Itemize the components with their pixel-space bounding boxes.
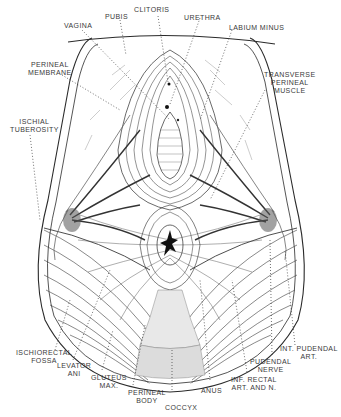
label-ischial-tuberosity: ISCHIAL TUBEROSITY — [10, 118, 59, 134]
perineum-diagram: VAGINA PUBIS CLITORIS URETHRA LABIUM MIN… — [0, 0, 341, 417]
label-labium-minus: LABIUM MINUS — [229, 24, 284, 32]
label-pubis: PUBIS — [105, 13, 128, 21]
vaginal-rugae — [158, 130, 182, 170]
ischial-tuberosity-left — [63, 208, 81, 232]
label-urethra: URETHRA — [184, 14, 221, 22]
label-coccyx: COCCYX — [165, 404, 197, 412]
label-clitoris: CLITORIS — [134, 6, 169, 14]
label-vagina: VAGINA — [64, 22, 92, 30]
label-levator-ani: LEVATOR ANI — [57, 362, 91, 378]
label-gluteus-max: GLUTEUS MAX. — [91, 374, 127, 390]
label-int-pudendal-art: INT. PUDENDAL ART. — [280, 345, 338, 361]
ischial-tuberosity-right — [259, 208, 277, 232]
label-inf-rectal-art-and-n: INF. RECTAL ART. AND N. — [231, 376, 277, 392]
pubic-hatching — [85, 60, 252, 160]
anal-orifice — [160, 230, 178, 256]
label-perineal-membrane: PERINEAL MEMBRANE — [28, 61, 72, 77]
label-perineal-body: PERINEAL BODY — [128, 389, 166, 405]
urethra-mark — [165, 105, 169, 109]
anococcygeal-body — [135, 290, 205, 379]
label-transverse-perineal-muscle: TRANSVERSE PERINEAL MUSCLE — [264, 71, 315, 95]
label-anus: ANUS — [201, 387, 222, 395]
clitoris-mark — [168, 83, 171, 86]
